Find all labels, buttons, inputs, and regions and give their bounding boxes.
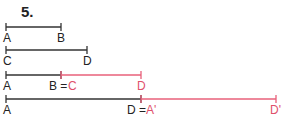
- point-label: A: [3, 104, 11, 116]
- point-label: A: [3, 80, 11, 92]
- point-label: A': [146, 104, 156, 116]
- point-label: B: [57, 32, 65, 44]
- point-label: B =: [49, 80, 67, 92]
- point-label: C: [68, 80, 77, 92]
- point-label: C: [3, 55, 12, 67]
- point-label: D: [137, 80, 146, 92]
- segment-diagram: [0, 0, 283, 116]
- point-label: D': [270, 104, 281, 116]
- point-label: D: [83, 55, 92, 67]
- point-label: A: [3, 32, 11, 44]
- point-label: D =: [127, 104, 146, 116]
